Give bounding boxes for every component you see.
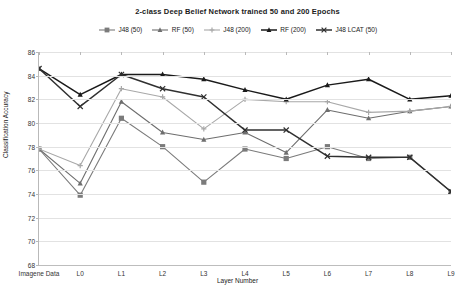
y-axis-tick-label: 86 xyxy=(28,49,35,56)
x-axis-tick-label: L4 xyxy=(241,270,248,277)
y-axis-tick-label: 68 xyxy=(28,262,35,269)
plot-area: 68707274767880828486Imagene DataL0L1L2L3… xyxy=(38,52,451,266)
x-axis-tick-mark xyxy=(410,52,411,55)
gridline xyxy=(39,218,451,219)
x-axis-tick-mark xyxy=(163,52,164,55)
x-axis-tick-label: L9 xyxy=(447,270,454,277)
y-axis-tick-mark xyxy=(36,265,39,266)
data-point-marker xyxy=(160,130,165,135)
x-axis-tick-mark xyxy=(121,52,122,55)
legend-swatch-triangle-icon xyxy=(260,26,278,34)
y-axis-tick-mark xyxy=(36,194,39,195)
series-rf-200 xyxy=(39,66,451,102)
y-axis-tick-mark xyxy=(36,99,39,100)
y-axis-tick-label: 76 xyxy=(28,167,35,174)
y-axis-tick-mark xyxy=(36,241,39,242)
series-line xyxy=(39,69,451,100)
gridline xyxy=(39,241,451,242)
data-point-marker xyxy=(78,163,83,168)
chart-container: 2-class Deep Belief Network trained 50 a… xyxy=(0,0,475,291)
gridline xyxy=(39,194,451,195)
x-axis-tick-mark xyxy=(39,52,40,55)
chart-title: 2-class Deep Belief Network trained 50 a… xyxy=(0,7,475,16)
legend-item-j48-200[interactable]: J48 (200) xyxy=(203,26,251,34)
x-axis-tick-label: L2 xyxy=(159,270,166,277)
gridline xyxy=(39,265,451,266)
legend-label: J48 (50) xyxy=(118,27,142,34)
data-point-marker xyxy=(284,156,289,161)
y-axis-tick-label: 74 xyxy=(28,191,35,198)
y-axis-tick-mark xyxy=(36,147,39,148)
x-axis-tick-label: L6 xyxy=(324,270,331,277)
x-axis-tick-mark xyxy=(451,52,452,55)
y-axis-title: Classification Accuracy xyxy=(2,92,9,158)
data-point-marker xyxy=(119,86,124,91)
legend-label: J48 LCAT (50) xyxy=(335,27,377,34)
x-axis-tick-mark xyxy=(327,52,328,55)
x-axis-tick-label: L1 xyxy=(118,270,125,277)
data-point-marker xyxy=(366,110,371,115)
legend-swatch-triangle-icon xyxy=(151,26,169,34)
y-axis-tick-label: 84 xyxy=(28,72,35,79)
x-axis-title: Layer Number xyxy=(0,277,475,284)
y-axis-tick-mark xyxy=(36,123,39,124)
data-point-marker xyxy=(78,104,83,109)
y-axis-tick-mark xyxy=(36,76,39,77)
series-layer xyxy=(39,52,451,265)
y-axis-tick-mark xyxy=(36,218,39,219)
x-axis-tick-mark xyxy=(245,52,246,55)
legend-item-j48-50[interactable]: J48 (50) xyxy=(98,26,142,34)
chart-legend: J48 (50)RF (50)J48 (200)RF (200)J48 LCAT… xyxy=(0,26,475,34)
data-point-marker xyxy=(105,28,110,33)
y-axis-tick-mark xyxy=(36,170,39,171)
legend-item-rf-50[interactable]: RF (50) xyxy=(151,26,194,34)
x-axis-tick-mark xyxy=(204,52,205,55)
x-axis-tick-label: L3 xyxy=(200,270,207,277)
x-axis-tick-label: L5 xyxy=(283,270,290,277)
y-axis-tick-label: 80 xyxy=(28,120,35,127)
legend-item-j48-lcat-50[interactable]: J48 LCAT (50) xyxy=(315,26,377,34)
legend-swatch-cross-icon xyxy=(315,26,333,34)
data-point-marker xyxy=(209,28,214,33)
legend-item-rf-200[interactable]: RF (200) xyxy=(260,26,306,34)
x-axis-tick-mark xyxy=(80,52,81,55)
x-axis-tick-label: L7 xyxy=(365,270,372,277)
y-axis-tick-label: 70 xyxy=(28,238,35,245)
data-point-marker xyxy=(325,107,330,112)
data-point-marker xyxy=(119,116,124,121)
y-axis-tick-label: 72 xyxy=(28,214,35,221)
x-axis-tick-label: L0 xyxy=(77,270,84,277)
data-point-marker xyxy=(201,180,206,185)
legend-swatch-plus-icon xyxy=(203,26,221,34)
legend-label: RF (200) xyxy=(280,27,306,34)
gridline xyxy=(39,123,451,124)
gridline xyxy=(39,99,451,100)
y-axis-tick-label: 78 xyxy=(28,143,35,150)
x-axis-tick-label: Imagene Data xyxy=(19,270,60,277)
gridline xyxy=(39,147,451,148)
y-axis-tick-label: 82 xyxy=(28,96,35,103)
x-axis-tick-mark xyxy=(286,52,287,55)
gridline xyxy=(39,170,451,171)
x-axis-tick-label: L8 xyxy=(406,270,413,277)
legend-swatch-square-icon xyxy=(98,26,116,34)
legend-label: RF (50) xyxy=(172,27,194,34)
legend-label: J48 (200) xyxy=(223,27,250,34)
gridline xyxy=(39,76,451,77)
x-axis-tick-mark xyxy=(369,52,370,55)
